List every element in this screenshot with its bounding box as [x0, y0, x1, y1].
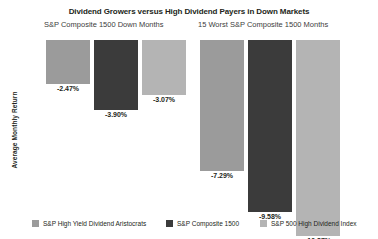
bar: -2.47%	[46, 40, 90, 84]
legend-swatch-icon	[166, 220, 173, 227]
bar-column	[46, 40, 90, 84]
bar: -3.07%	[142, 40, 186, 95]
plot-area: -2.47%-3.90%-3.07% -7.29%-9.58%-10.87%	[30, 0, 378, 211]
bar: -3.90%	[94, 40, 138, 110]
bar-group-down-months: -2.47%-3.90%-3.07%	[46, 0, 186, 211]
bar-value-label: -7.29%	[200, 172, 244, 179]
bar-value-label: -3.90%	[94, 111, 138, 118]
legend-label: S&P 500 High Dividend Index	[271, 220, 357, 227]
legend-item-aristocrats[interactable]: S&P High Yield Dividend Aristocrats	[32, 220, 146, 227]
bar-column	[142, 40, 186, 95]
bar-column	[296, 40, 340, 236]
legend-swatch-icon	[260, 220, 267, 227]
legend-label: S&P High Yield Dividend Aristocrats	[43, 220, 146, 227]
legend-item-composite-1500[interactable]: S&P Composite 1500	[166, 220, 239, 227]
y-axis-label: Average Monthly Return	[11, 60, 18, 200]
bar-value-label: -2.47%	[46, 85, 90, 92]
bar: -9.58%	[248, 40, 292, 212]
bar: -7.29%	[200, 40, 244, 171]
bar-value-label: -10.87%	[296, 237, 340, 239]
y-axis-label-container: Average Monthly Return	[0, 60, 14, 200]
bar-column	[248, 40, 292, 212]
legend-item-high-dividend-index[interactable]: S&P 500 High Dividend Index	[260, 220, 357, 227]
bar: -10.87%	[296, 40, 340, 236]
bar-column	[200, 40, 244, 171]
bar-value-label: -3.07%	[142, 96, 186, 103]
bar-column	[94, 40, 138, 110]
legend: S&P High Yield Dividend Aristocrats S&P …	[0, 220, 378, 234]
legend-label: S&P Composite 1500	[177, 220, 239, 227]
legend-swatch-icon	[32, 220, 39, 227]
bar-group-worst-months: -7.29%-9.58%-10.87%	[200, 0, 364, 211]
